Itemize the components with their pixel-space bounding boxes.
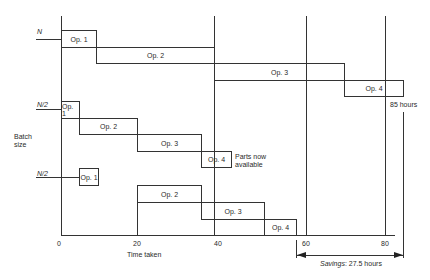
gridline-60 <box>306 16 307 235</box>
op4-batch-n: Op. 4 <box>344 80 404 97</box>
op-label: Op. 3 <box>224 208 241 215</box>
total-time-label: 85 hours <box>390 101 417 109</box>
op2-batch-n2-b: Op. 2 <box>137 185 202 203</box>
end-marker-85 <box>403 112 404 258</box>
y-axis-label-line1: Batch <box>14 133 32 141</box>
op-label: Op. 4 <box>272 224 289 231</box>
gridline-80 <box>385 16 386 235</box>
op-label: Op. 2 <box>161 191 178 198</box>
op-label: Op. 4 <box>208 156 225 163</box>
parts-available-line1: Parts now <box>235 153 266 161</box>
x-tick-60: 60 <box>302 240 310 248</box>
x-tick-80: 80 <box>381 240 389 248</box>
op-label: Op. 4 <box>365 85 382 92</box>
op2-batch-n2-a: Op. 2 <box>79 118 138 135</box>
op-label: Op. 2 <box>100 123 117 130</box>
op1-batch-n: Op. 1 <box>61 30 97 48</box>
batch-lead-line <box>36 109 61 110</box>
op4-batch-n2-a: Op. 4 <box>201 151 232 168</box>
savings-value: : 27.5 hours <box>345 260 382 267</box>
savings-prefix: Savings <box>320 260 345 267</box>
op3-batch-n2-a: Op. 3 <box>137 134 202 152</box>
op2-batch-n: Op. 2 <box>96 47 215 64</box>
x-axis-line <box>61 235 395 236</box>
x-tick-0: 0 <box>57 240 61 248</box>
op-label: Op. 1 <box>80 174 97 181</box>
savings-dimension-line <box>297 255 403 256</box>
arrow-right-icon <box>394 252 403 258</box>
y-axis-line <box>61 16 62 235</box>
op3-batch-n: Op. 3 <box>214 63 345 81</box>
op4-batch-n2-b: Op. 4 <box>264 219 297 236</box>
op-label: Op. 1 <box>62 103 79 117</box>
x-tick-40: 40 <box>214 240 222 248</box>
op-label: Op. 1 <box>70 36 87 43</box>
op3-batch-n2-b: Op. 3 <box>201 202 265 220</box>
batch-label-n: N <box>37 28 42 36</box>
batch-lead-line <box>36 177 80 178</box>
op1-batch-n2-b: Op. 1 <box>79 168 99 186</box>
y-axis-label-line2: size <box>14 141 26 149</box>
batch-label-n2-a: N/2 <box>37 101 48 109</box>
batch-lead-line <box>36 39 61 40</box>
x-axis-label: Time taken <box>127 251 161 259</box>
op-label: Op. 2 <box>147 52 164 59</box>
op1-batch-n2-a: Op. 1 <box>61 101 80 119</box>
x-tick-20: 20 <box>133 240 141 248</box>
op-label: Op. 3 <box>161 140 178 147</box>
arrow-left-icon <box>297 252 306 258</box>
savings-label: Savings: 27.5 hours <box>320 260 382 268</box>
parts-available-line2: available <box>235 161 263 169</box>
op-label: Op. 3 <box>271 69 288 76</box>
